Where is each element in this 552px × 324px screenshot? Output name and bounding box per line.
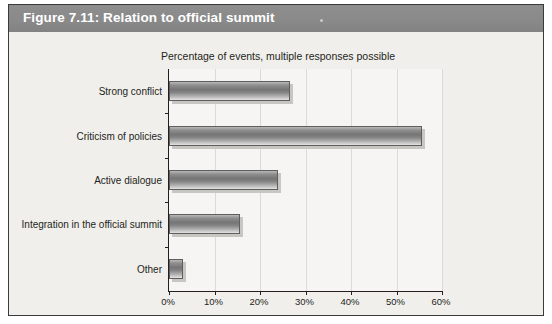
y-axis-tick [165,202,169,203]
bar-fill [169,126,422,146]
title-bar-dot-icon [320,19,323,22]
x-axis-tick [215,291,216,295]
x-axis-label: 0% [161,296,175,307]
y-axis-category-label: Active dialogue [94,175,162,186]
bar [169,214,240,234]
x-axis-tick [306,291,307,295]
gridline [351,69,352,291]
figure-frame: Figure 7.11: Relation to official summit… [8,4,544,316]
gridline [397,69,398,291]
x-axis-label: 30% [295,296,314,307]
x-axis-label: 10% [204,296,223,307]
x-axis-tick [260,291,261,295]
y-axis-tick [165,113,169,114]
y-axis-category-label: Criticism of policies [76,130,162,141]
y-axis-category-label: Integration in the official summit [22,219,162,230]
x-axis-label: 50% [386,296,405,307]
x-axis-tick [442,291,443,295]
x-axis-tick [169,291,170,295]
y-axis-category-label: Strong conflict [99,86,162,97]
bar-fill [169,170,278,190]
y-axis-category-label: Other [137,263,162,274]
bar [169,170,278,190]
y-axis-tick [165,247,169,248]
bar-fill [169,214,240,234]
x-axis-tick [397,291,398,295]
bar-fill [169,81,290,101]
bar [169,126,422,146]
gridline [442,69,443,291]
chart-canvas: Percentage of events, multiple responses… [9,32,543,315]
x-axis-label: 40% [340,296,359,307]
gridline [306,69,307,291]
figure-title-bar: Figure 7.11: Relation to official summit [9,5,543,32]
bar [169,81,290,101]
bar [169,259,183,279]
x-axis-label: 20% [249,296,268,307]
figure-title: Figure 7.11: Relation to official summit [23,10,275,25]
y-axis-tick [165,158,169,159]
plot-area: Strong conflictCriticism of policiesActi… [168,69,442,292]
x-axis-tick [351,291,352,295]
chart-subtitle: Percentage of events, multiple responses… [161,50,395,62]
figure-container: Figure 7.11: Relation to official summit… [0,0,552,324]
bar-fill [169,259,183,279]
x-axis-label: 60% [431,296,450,307]
